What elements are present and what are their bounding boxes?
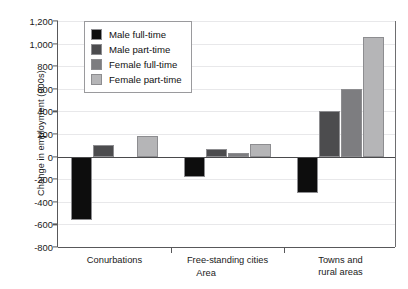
y-tick-mark bbox=[53, 224, 58, 225]
bar bbox=[184, 157, 205, 177]
legend-swatch-female-full-time bbox=[91, 59, 102, 70]
x-group-label: Free-standing cities bbox=[187, 255, 268, 267]
legend-label: Male full-time bbox=[109, 29, 166, 40]
y-tick-label: 400 bbox=[37, 106, 53, 117]
legend-label: Female part-time bbox=[109, 74, 182, 85]
bar bbox=[137, 136, 158, 156]
y-tick-label: 600 bbox=[37, 83, 53, 94]
y-tick-label: 1,000 bbox=[30, 38, 53, 49]
bar bbox=[319, 111, 340, 156]
gridline bbox=[58, 247, 395, 248]
bar bbox=[363, 37, 384, 157]
legend-item: Male part-time bbox=[91, 42, 182, 57]
y-tick-mark bbox=[53, 43, 58, 44]
x-group-label: Conurbations bbox=[87, 255, 142, 267]
bar bbox=[93, 145, 114, 156]
y-tick-mark bbox=[53, 179, 58, 180]
y-tick-mark bbox=[53, 88, 58, 89]
y-tick-label: 200 bbox=[37, 129, 53, 140]
y-tick-mark bbox=[53, 133, 58, 134]
legend-label: Male part-time bbox=[109, 44, 170, 55]
zero-line bbox=[58, 157, 395, 158]
bar bbox=[297, 157, 318, 193]
x-group-label: Towns and rural areas bbox=[318, 255, 362, 278]
y-tick-label: -600 bbox=[34, 219, 53, 230]
y-tick-label: 1,200 bbox=[30, 16, 53, 27]
y-tick-label: -400 bbox=[34, 196, 53, 207]
legend-item: Male full-time bbox=[91, 27, 182, 42]
y-tick-label: 0 bbox=[48, 151, 53, 162]
gridline bbox=[58, 179, 395, 180]
bar bbox=[341, 89, 362, 157]
y-tick-mark bbox=[53, 111, 58, 112]
y-tick-mark bbox=[53, 66, 58, 67]
legend-label: Female full-time bbox=[109, 59, 177, 70]
chart-legend: Male full-time Male part-time Female ful… bbox=[84, 21, 192, 93]
y-tick-label: 800 bbox=[37, 61, 53, 72]
legend-swatch-female-part-time bbox=[91, 74, 102, 85]
y-tick-label: -200 bbox=[34, 174, 53, 185]
gridline bbox=[58, 202, 395, 203]
gridline bbox=[58, 224, 395, 225]
x-axis-title: Area bbox=[196, 268, 216, 278]
legend-item: Female full-time bbox=[91, 57, 182, 72]
y-tick-label: -800 bbox=[34, 242, 53, 253]
y-tick-mark bbox=[53, 20, 58, 21]
bar bbox=[250, 144, 271, 156]
bar bbox=[206, 149, 227, 157]
bar bbox=[71, 157, 92, 220]
bar-chart: Change in employment (000s) 1,2001,00080… bbox=[0, 0, 408, 289]
y-tick-mark bbox=[53, 201, 58, 202]
legend-swatch-male-part-time bbox=[91, 44, 102, 55]
legend-swatch-male-full-time bbox=[91, 29, 102, 40]
legend-item: Female part-time bbox=[91, 72, 182, 87]
